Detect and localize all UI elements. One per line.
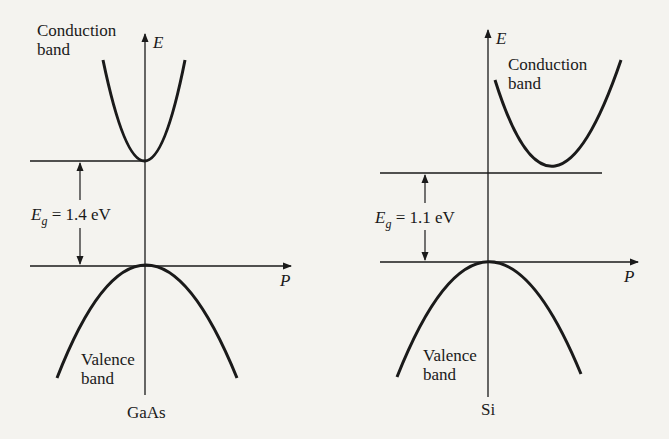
si-energy-axis-label: E [496,29,506,48]
gaas-conduction-label-line1: Conduction [37,21,116,40]
si-momentum-axis-label: P [624,267,634,286]
si-gap-symbol: E [375,208,385,227]
si-valence-label: Valence band [423,346,477,384]
gaas-gap-subscript: g [41,214,47,228]
si-conduction-label: Conduction band [508,55,587,93]
gaas-valence-label-line2: band [81,369,135,388]
si-gap-subscript: g [385,217,391,231]
si-gap-value: = 1.1 eV [396,208,455,227]
si-band-gap-label: Eg = 1.1 eV [375,208,455,229]
si-valence-label-line1: Valence [423,346,477,365]
gaas-gap-value: = 1.4 eV [52,205,111,224]
gaas-conduction-label-line2: band [37,40,116,59]
gaas-material-label: GaAs [127,403,166,422]
gaas-band-gap-label: Eg = 1.4 eV [31,205,111,226]
gaas-valence-label-line1: Valence [81,350,135,369]
si-material-label: Si [481,400,495,419]
gaas-momentum-axis-label: P [280,271,290,290]
si-conduction-label-line1: Conduction [508,55,587,74]
gaas-gap-symbol: E [31,205,41,224]
gaas-conduction-label: Conduction band [37,21,116,59]
gaas-conduction-band-curve [103,60,185,161]
si-conduction-label-line2: band [508,74,587,93]
gaas-energy-axis-label: E [153,33,163,52]
gaas-valence-label: Valence band [81,350,135,388]
si-valence-label-line2: band [423,365,477,384]
